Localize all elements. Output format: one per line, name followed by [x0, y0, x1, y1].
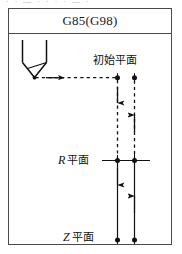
r-plane-symbol: R [58, 153, 67, 167]
initial-plane-label: 初始平面 [93, 55, 137, 66]
z-plane-symbol: Z [63, 230, 72, 244]
z-plane-label: Z平面 [63, 231, 94, 243]
title-band: G85(G98) [8, 8, 172, 34]
scan-artifact-text: · · — · · · · — · [6, 0, 176, 4]
figure-frame [8, 8, 172, 245]
z-plane-label-text: 平面 [72, 231, 94, 244]
page-title: G85(G98) [62, 14, 117, 27]
r-plane-label-text: 平面 [67, 154, 89, 167]
r-plane-label: R平面 [58, 154, 89, 166]
figure-root: · · — · · · · — · G85(G98) [0, 0, 182, 254]
